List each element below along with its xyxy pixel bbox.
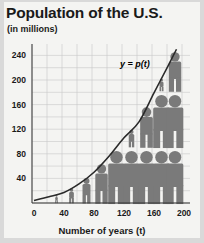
y-tick-label: 40 — [17, 173, 27, 183]
y-tick-label: 80 — [17, 149, 27, 159]
curve-label: y = p(t) — [119, 59, 150, 69]
x-tick-labels: 04080120160200 — [32, 208, 192, 218]
y-tick-labels: 4080120160200240 — [12, 50, 26, 183]
x-tick-label: 120 — [117, 208, 131, 218]
x-tick-label: 160 — [147, 208, 161, 218]
y-tick-label: 160 — [12, 100, 26, 110]
x-axis-label: Number of years (t) — [0, 225, 204, 236]
x-tick-label: 200 — [177, 208, 191, 218]
y-tick-label: 120 — [12, 124, 26, 134]
x-tick-label: 80 — [89, 208, 99, 218]
x-tick-label: 0 — [32, 208, 37, 218]
plot-area: y = p(t) 04080120160200 4080120160200240 — [0, 0, 204, 243]
y-tick-label: 200 — [12, 75, 26, 85]
x-tick-label: 40 — [59, 208, 69, 218]
y-tick-label: 240 — [12, 50, 26, 60]
